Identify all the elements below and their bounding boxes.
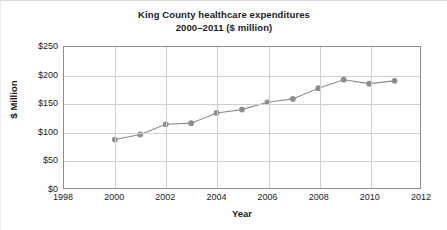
plot-area [63,46,421,189]
gridline-vertical [371,47,372,188]
data-point-marker [188,120,194,126]
x-axis-tick-labels: 19982000200220042006200820102012 [63,192,421,206]
y-axis-tick-label: $150 [38,98,58,108]
y-axis-tick-label: $250 [38,41,58,51]
series-line [115,80,395,140]
x-axis-title: Year [63,208,421,219]
data-point-marker [392,78,398,84]
gridline-vertical [269,47,270,188]
x-axis-tick-label: 2010 [360,192,380,202]
y-axis-tick-label: $200 [38,70,58,80]
chart-title-line1: King County healthcare expenditures [1,9,447,22]
gridline-vertical [217,47,218,188]
gridline-horizontal [64,76,420,77]
series-line-chart [64,47,420,188]
chart-title-line2: 2000–2011 ($ million) [1,22,447,35]
x-axis-tick-label: 2006 [258,192,278,202]
gridline-horizontal [64,133,420,134]
x-axis-tick-label: 1998 [53,192,73,202]
data-point-marker [290,96,296,102]
y-axis-tick-labels: $0$50$100$150$200$250 [1,46,63,189]
chart-figure: King County healthcare expenditures 2000… [0,0,447,230]
gridline-horizontal [64,104,420,105]
x-axis-tick-label: 2002 [155,192,175,202]
chart-title: King County healthcare expenditures 2000… [1,9,447,34]
data-point-marker [239,107,245,113]
gridline-vertical [166,47,167,188]
x-axis-tick-label: 2000 [104,192,124,202]
gridline-horizontal [64,161,420,162]
gridline-vertical [320,47,321,188]
x-axis-tick-label: 2012 [411,192,431,202]
data-point-marker [341,77,347,83]
x-axis-tick-label: 2004 [206,192,226,202]
x-axis-tick-label: 2008 [309,192,329,202]
y-axis-tick-label: $50 [43,155,58,165]
gridline-vertical [115,47,116,188]
y-axis-tick-label: $100 [38,127,58,137]
